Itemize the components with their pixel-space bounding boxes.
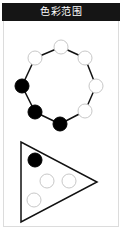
ring-circle-filled — [28, 105, 42, 119]
triangle-circles — [27, 153, 76, 207]
ring-circle-empty — [89, 79, 103, 93]
ring-circle-empty — [78, 104, 92, 118]
triangle-circle-empty — [40, 174, 54, 188]
triangle-circle-empty — [27, 193, 41, 207]
ring-circle-filled — [53, 117, 67, 131]
ring-circles — [15, 40, 103, 131]
ring-circle-empty — [78, 51, 92, 65]
diagram-canvas — [0, 0, 124, 230]
triangle-circle-empty — [62, 174, 76, 188]
ring-circle-filled — [15, 79, 29, 93]
ring-circle-empty — [28, 51, 42, 65]
triangle-circle-filled — [28, 153, 42, 167]
ring-circle-empty — [54, 40, 68, 54]
